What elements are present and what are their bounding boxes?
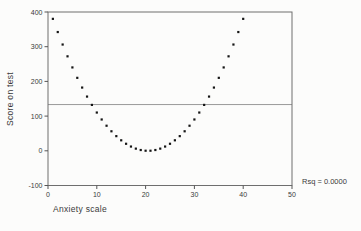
x-axis-tick-label: 50	[288, 191, 296, 198]
x-axis-title: Anxiety scale	[53, 204, 107, 214]
data-point	[198, 111, 200, 113]
data-point	[208, 95, 210, 97]
data-point	[232, 43, 234, 45]
data-point	[62, 43, 64, 45]
rsq-annotation: Rsq = 0.0000	[302, 177, 347, 186]
data-point	[237, 31, 239, 33]
data-point	[174, 139, 176, 141]
x-axis-tick-label: 30	[191, 191, 199, 198]
data-point	[154, 149, 156, 151]
data-point	[57, 31, 59, 33]
data-point	[120, 139, 122, 141]
y-axis-tick-label: 400	[31, 9, 43, 16]
data-point	[76, 77, 78, 79]
data-point	[71, 66, 73, 68]
data-point	[81, 86, 83, 88]
data-point	[169, 143, 171, 145]
x-axis-tick-label: 10	[93, 191, 101, 198]
data-point	[227, 55, 229, 57]
data-point	[184, 130, 186, 132]
data-point	[86, 95, 88, 97]
scatter-plot-svg: 010203040504003002001000-100	[0, 0, 361, 231]
y-axis-tick-label: 0	[39, 147, 43, 154]
data-point	[101, 118, 103, 120]
data-point	[115, 135, 117, 137]
data-point	[242, 18, 244, 20]
data-point	[140, 149, 142, 151]
data-point	[223, 66, 225, 68]
x-axis-tick-label: 0	[46, 191, 50, 198]
data-point	[159, 148, 161, 150]
x-axis-tick-label: 40	[239, 191, 247, 198]
y-axis-title: Score on test	[3, 12, 17, 186]
data-point	[66, 55, 68, 57]
data-point	[218, 77, 220, 79]
data-point	[213, 86, 215, 88]
data-point	[193, 118, 195, 120]
data-point	[179, 135, 181, 137]
data-point	[145, 150, 147, 152]
data-point	[149, 150, 151, 152]
y-axis-tick-label: 300	[31, 43, 43, 50]
data-point	[125, 143, 127, 145]
data-point	[96, 111, 98, 113]
y-axis-tick-label: -100	[28, 182, 42, 189]
y-axis-tick-label: 100	[31, 113, 43, 120]
data-point	[135, 148, 137, 150]
data-point	[203, 104, 205, 106]
data-point	[105, 125, 107, 127]
scatterplot-chart: 010203040504003002001000-100 Score on te…	[0, 0, 361, 231]
data-point	[91, 104, 93, 106]
x-axis-tick-label: 20	[142, 191, 150, 198]
data-point	[188, 125, 190, 127]
y-axis-tick-label: 200	[31, 78, 43, 85]
data-point	[164, 145, 166, 147]
plot-frame	[48, 12, 292, 186]
data-point	[52, 18, 54, 20]
data-point	[110, 130, 112, 132]
data-point	[130, 145, 132, 147]
